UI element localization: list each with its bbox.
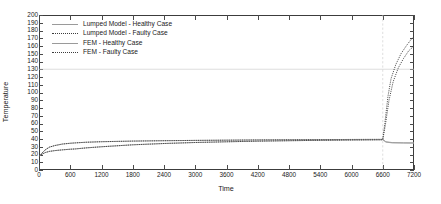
chart-figure: Temperature Time 01020304050607080901001…: [0, 0, 441, 204]
legend-label: FEM - Faulty Case: [83, 49, 138, 56]
legend-item: Lumped Model - Healthy Case: [52, 20, 172, 28]
legend-item: FEM - Faulty Case: [52, 49, 172, 57]
legend-line-swatch: [52, 40, 78, 47]
legend-item: Lumped Model - Faulty Case: [52, 30, 172, 38]
legend-line-swatch: [52, 49, 78, 56]
legend-line-swatch: [52, 30, 78, 37]
legend-label: Lumped Model - Healthy Case: [83, 21, 172, 28]
legend-item: FEM - Healthy Case: [52, 39, 172, 47]
chart-legend: Lumped Model - Healthy CaseLumped Model …: [52, 20, 172, 57]
legend-label: FEM - Healthy Case: [83, 40, 142, 47]
legend-label: Lumped Model - Faulty Case: [83, 30, 168, 37]
legend-line-swatch: [52, 21, 78, 28]
